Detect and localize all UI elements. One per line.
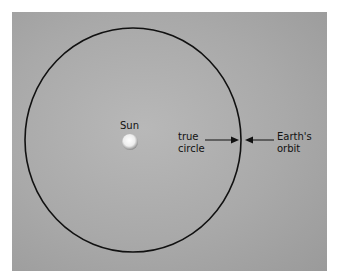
orbit-label-1: Earth's — [277, 131, 312, 143]
true-circle-label-1: true — [178, 131, 199, 143]
true-circle-label-2: circle — [178, 143, 205, 155]
orbit-label-2: orbit — [277, 143, 300, 155]
sun-label: Sun — [120, 120, 139, 132]
sun-icon — [122, 134, 138, 150]
